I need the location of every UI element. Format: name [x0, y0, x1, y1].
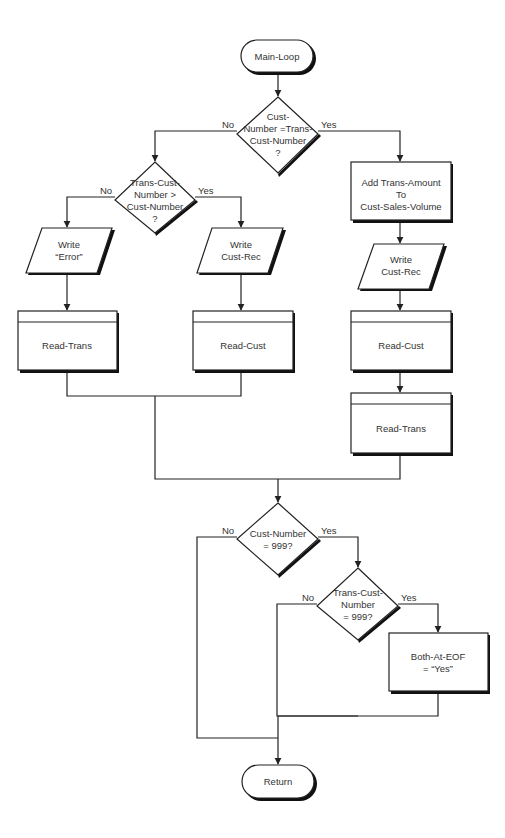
svg-text:= 999?: = 999? — [263, 540, 292, 551]
svg-text:Cust-Sales-Volume: Cust-Sales-Volume — [360, 201, 441, 212]
svg-text:Number >: Number > — [134, 189, 176, 200]
io-write-error: Write “Error” — [26, 228, 115, 275]
arrow-d3-no — [197, 537, 278, 738]
d3-yes-label: Yes — [321, 525, 337, 536]
svg-text:Cust-Rec: Cust-Rec — [221, 251, 261, 262]
io-write-cust-rec-right: Write Cust-Rec — [358, 244, 447, 291]
svg-text:?: ? — [152, 213, 157, 224]
terminal-main-loop: Main-Loop — [241, 40, 316, 75]
svg-text:Trans-Cust-: Trans-Cust- — [333, 587, 383, 598]
io-write-cust-rec-left: Write Cust-Rec — [197, 228, 286, 275]
merge-left — [67, 370, 241, 396]
svg-text:= “Yes”: = “Yes” — [423, 663, 453, 674]
decision-trans-cust-number-999: Trans-Cust- Number = 999? — [317, 568, 401, 643]
predefined-read-trans-right: Read-Trans — [351, 393, 453, 456]
d4-no-label: No — [302, 592, 314, 603]
svg-text:Read-Trans: Read-Trans — [376, 423, 426, 434]
svg-text:Read-Trans: Read-Trans — [42, 340, 92, 351]
decision-trans-greater-cust: Trans-Cust- Number > Cust-Number ? — [115, 162, 198, 236]
svg-text:Write: Write — [58, 239, 80, 250]
terminal-label: Return — [264, 776, 293, 787]
arrow-d2-no — [67, 197, 115, 227]
svg-text:Write: Write — [390, 254, 412, 265]
arrow-d3-yes — [318, 537, 358, 567]
d1-no-label: No — [222, 119, 234, 130]
terminal-return: Return — [242, 765, 317, 801]
svg-text:Cust-Number: Cust-Number — [250, 528, 307, 539]
predefined-read-cust-left: Read-Cust — [193, 311, 295, 373]
decision-cust-equals-trans: Cust- Number =Trans- Cust-Number ? — [237, 97, 321, 177]
arrow-d1-yes — [318, 131, 400, 161]
svg-text:Cust-Rec: Cust-Rec — [381, 266, 421, 277]
svg-text:Cust-Number: Cust-Number — [127, 201, 184, 212]
svg-text:Add Trans-Amount: Add Trans-Amount — [361, 177, 441, 188]
d3-no-label: No — [222, 525, 234, 536]
d1-yes-label: Yes — [321, 119, 337, 130]
arrow-d2-yes — [195, 197, 241, 227]
svg-text:“Error”: “Error” — [55, 251, 82, 262]
d4-yes-label: Yes — [401, 592, 417, 603]
svg-text:Read-Cust: Read-Cust — [378, 340, 424, 351]
predefined-read-trans-left: Read-Trans — [18, 311, 119, 373]
terminal-label: Main-Loop — [255, 51, 300, 62]
svg-text:Cust-: Cust- — [267, 111, 290, 122]
svg-text:Cust-Number: Cust-Number — [250, 135, 307, 146]
arrow-d1-no — [155, 131, 237, 161]
svg-text:Write: Write — [230, 239, 252, 250]
svg-text:Both-At-EOF: Both-At-EOF — [411, 651, 466, 662]
svg-text:Number =Trans-: Number =Trans- — [243, 123, 312, 134]
flowchart-canvas: No Yes No Yes No Yes No Yes Main-Loop Cu… — [0, 0, 505, 838]
process-add-trans-amount: Add Trans-Amount To Cust-Sales-Volume — [351, 162, 453, 223]
svg-text:?: ? — [275, 147, 280, 158]
process-set-both-at-eof: Both-At-EOF = “Yes” — [389, 633, 490, 694]
svg-text:Read-Cust: Read-Cust — [220, 340, 266, 351]
decision-cust-number-999: Cust-Number = 999? — [237, 503, 321, 578]
d2-yes-label: Yes — [198, 185, 214, 196]
d2-no-label: No — [100, 185, 112, 196]
svg-text:Number: Number — [341, 599, 375, 610]
arrow-d4-yes — [398, 604, 438, 632]
svg-text:Trans-Cust-: Trans-Cust- — [130, 177, 180, 188]
svg-text:= 999?: = 999? — [343, 611, 372, 622]
predefined-read-cust-right: Read-Cust — [351, 311, 453, 373]
svg-text:To: To — [396, 189, 406, 200]
